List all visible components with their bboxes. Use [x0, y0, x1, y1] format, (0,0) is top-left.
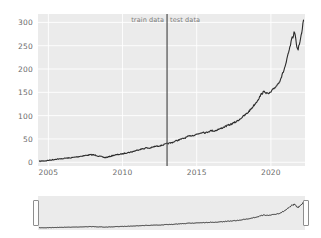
- main-plot-svg: [38, 14, 305, 166]
- range-slider-right-handle[interactable]: [303, 200, 309, 226]
- price-series-line: [39, 20, 303, 162]
- y-axis-tick-label: 250: [18, 41, 33, 50]
- range-slider-series-line: [39, 202, 303, 228]
- test-data-label: test data: [170, 16, 200, 24]
- y-axis-tick-label: 150: [18, 88, 33, 97]
- x-axis-tick-label: 2005: [38, 168, 58, 177]
- y-axis-tick-label: 0: [28, 158, 33, 167]
- y-axis-tick-label: 100: [18, 111, 33, 120]
- x-axis: 2005201020152020: [0, 168, 321, 182]
- y-axis: 300250200150100500: [0, 0, 38, 180]
- y-axis-tick-label: 50: [23, 134, 33, 143]
- range-slider-left-handle[interactable]: [33, 200, 39, 226]
- y-axis-tick-label: 300: [18, 18, 33, 27]
- gridlines: [38, 14, 305, 166]
- x-axis-tick-label: 2015: [187, 168, 207, 177]
- range-slider-svg: [38, 196, 305, 230]
- x-axis-tick-label: 2020: [261, 168, 281, 177]
- train-data-label: train data: [131, 16, 164, 24]
- chart-figure: train data test data 300250200150100500 …: [0, 0, 321, 238]
- range-slider-panel[interactable]: [38, 196, 305, 230]
- y-axis-tick-label: 200: [18, 65, 33, 74]
- x-axis-tick-label: 2010: [113, 168, 133, 177]
- main-plot-panel[interactable]: [38, 14, 305, 166]
